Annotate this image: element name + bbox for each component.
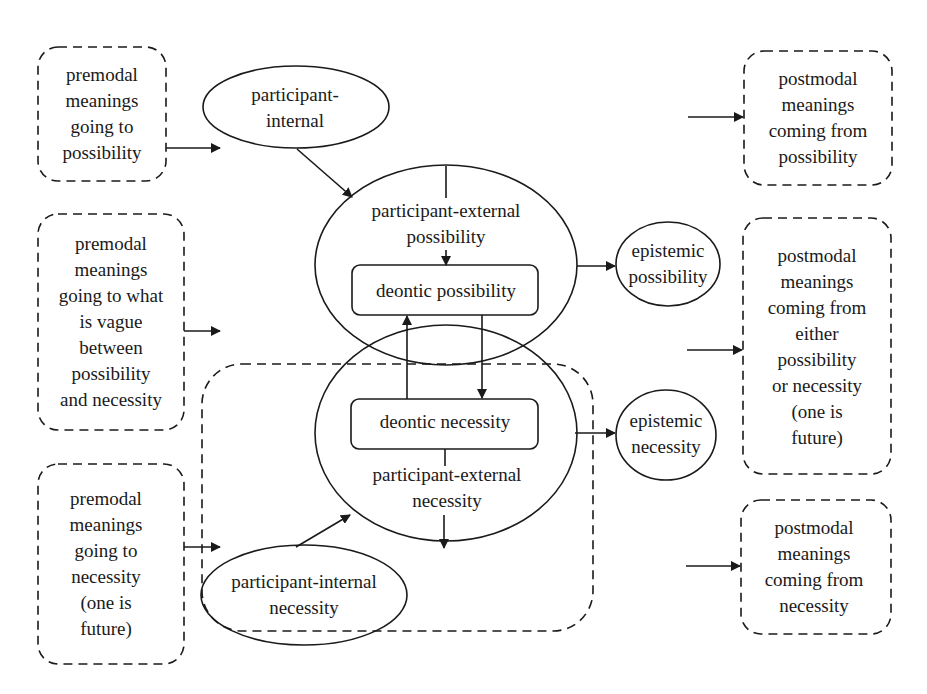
deontic-possibility-label: deontic possibility	[376, 278, 516, 304]
deontic-necessity-label: deontic necessity	[380, 409, 510, 435]
participant-internal-label: participant- internal	[251, 82, 339, 134]
premodal-possibility-label: premodal meanings going to possibility	[62, 62, 141, 166]
postmodal-necessity-label: postmodal meanings coming from necessity	[765, 515, 864, 619]
participant-external-possibility-label: participant-external possibility	[372, 198, 521, 250]
epistemic-necessity-label: epistemic necessity	[630, 408, 703, 460]
postmodal-either-label: postmodal meanings coming from either po…	[768, 243, 867, 451]
postmodal-possibility-label: postmodal meanings coming from possibili…	[769, 66, 868, 170]
participant-external-necessity-label: participant-external necessity	[373, 462, 522, 514]
arrow-internal-to-possibility	[297, 149, 352, 197]
participant-internal-necessity-label: participant-internal necessity	[231, 569, 377, 621]
premodal-necessity-label: premodal meanings going to necessity (on…	[70, 486, 143, 642]
premodal-vague-label: premodal meanings going to what is vague…	[59, 231, 164, 413]
epistemic-possibility-label: epistemic possibility	[628, 238, 707, 290]
arrow-internal-necessity-to-necessity	[296, 515, 350, 547]
